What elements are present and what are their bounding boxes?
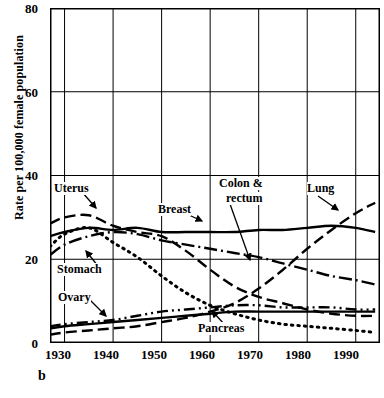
annotation-ovary: Ovary: [58, 291, 91, 304]
annotation-colon-rectum-line2: rectum: [226, 192, 262, 205]
leader-arrow-lung: [318, 196, 338, 210]
gridlines: [50, 8, 380, 343]
x-tick-1970: 1970: [224, 348, 276, 361]
y-tick-40: 40: [4, 169, 38, 182]
x-tick-1980: 1980: [272, 348, 324, 361]
annotation-stomach: Stomach: [57, 263, 102, 276]
y-axis-label: Rate per 100,000 female population: [12, 13, 27, 243]
annotation-lung: Lung: [307, 182, 334, 195]
plot-area: [50, 8, 380, 343]
y-tick-20: 20: [4, 253, 38, 266]
panel-letter: b: [38, 368, 46, 384]
y-tick-80: 80: [4, 2, 38, 15]
annotation-breast: Breast: [158, 203, 191, 216]
figure-panel-b: Rate per 100,000 female population 80 60…: [0, 0, 384, 398]
x-tick-1960: 1960: [176, 348, 228, 361]
annotation-pancreas: Pancreas: [198, 322, 244, 335]
annotation-colon-rectum-line1: Colon &: [219, 177, 263, 190]
series-line-stomach: [50, 228, 375, 333]
leader-arrow-ovary: [90, 300, 106, 316]
x-tick-1950: 1950: [128, 348, 180, 361]
series-line-colon-rectum: [50, 232, 375, 284]
annotation-uterus: Uterus: [54, 182, 89, 195]
x-tick-1930: 1930: [32, 348, 84, 361]
y-tick-60: 60: [4, 86, 38, 99]
line-chart-svg: [50, 8, 380, 343]
x-tick-1940: 1940: [80, 348, 132, 361]
x-tick-1990: 1990: [320, 348, 372, 361]
